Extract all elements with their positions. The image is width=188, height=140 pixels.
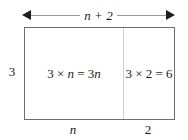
top-dimension-arrow: n + 2	[22, 8, 175, 24]
top-dimension-label: n + 2	[80, 8, 116, 24]
bottom-dimension-label-1: n	[53, 122, 93, 137]
left-dimension-label: 3	[4, 64, 20, 79]
cell-right-expression: 3 × 2 = 6	[125, 66, 172, 82]
cell-right: 3 × 2 = 6	[124, 28, 174, 119]
area-model-diagram: n + 2 3 3 × n = 3n 3 × 2 = 6 n 2	[0, 0, 188, 140]
cell-left: 3 × n = 3n	[25, 28, 123, 119]
cell-left-expression: 3 × n = 3n	[47, 66, 101, 82]
top-dimension-label-wrap: n + 2	[22, 6, 175, 24]
bottom-dimension-label-2: 2	[128, 122, 168, 137]
rectangle: 3 × n = 3n 3 × 2 = 6	[24, 27, 175, 120]
